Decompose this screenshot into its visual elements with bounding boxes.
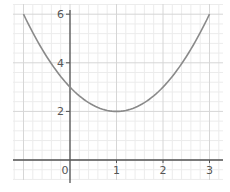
x-tick-label: 0 <box>62 164 69 177</box>
x-tick-label: 2 <box>160 164 167 177</box>
y-tick-label: 6 <box>57 8 64 21</box>
parabola-chart: 0123246 <box>0 0 230 192</box>
y-tick-label: 4 <box>57 57 64 70</box>
minor-grid <box>13 4 223 180</box>
x-tick-label: 1 <box>113 164 120 177</box>
axes <box>13 10 223 183</box>
y-tick-label: 2 <box>57 105 64 118</box>
x-tick-label: 3 <box>206 164 213 177</box>
